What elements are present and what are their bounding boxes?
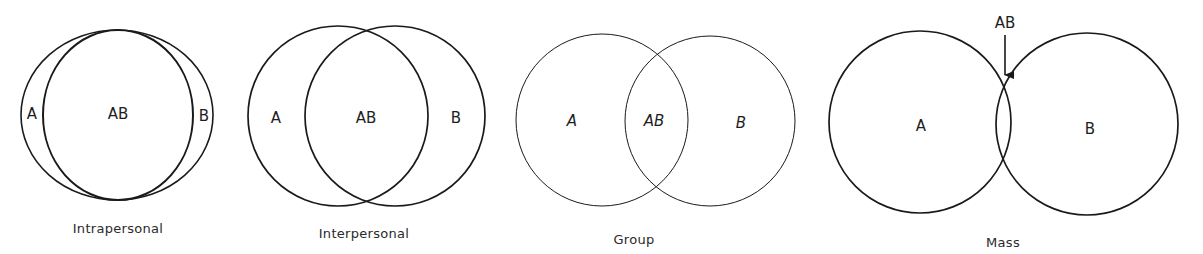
label-a: A [566, 112, 577, 130]
label-b: B [451, 109, 461, 127]
label-b: B [199, 107, 209, 125]
label-ab: AB [356, 109, 377, 127]
label-a: A [916, 117, 927, 135]
panel-interpersonal: A AB B Interpersonal [248, 26, 485, 241]
caption-intrapersonal: Intrapersonal [73, 221, 164, 236]
label-a: A [271, 109, 282, 127]
label-ab: AB [108, 105, 129, 123]
label-a: A [27, 105, 38, 123]
panel-intrapersonal: A AB B Intrapersonal [21, 30, 213, 236]
panel-group: A AB B Group [516, 34, 795, 247]
caption-group: Group [613, 232, 654, 247]
label-ab-callout: AB [995, 14, 1016, 32]
label-b: B [1085, 120, 1095, 138]
label-ab: AB [643, 112, 665, 130]
venn-diagram-figure: A AB B Intrapersonal A AB B Interpersona… [0, 0, 1203, 254]
caption-interpersonal: Interpersonal [319, 226, 410, 241]
panel-mass: AB A B Mass [829, 14, 1178, 250]
caption-mass: Mass [986, 235, 1020, 250]
label-b: B [736, 114, 746, 132]
